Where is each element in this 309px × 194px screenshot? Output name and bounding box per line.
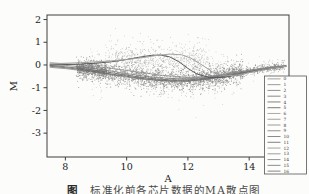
legend-entry-label: 12 — [284, 146, 290, 151]
legend: 012345678910111213141516 — [265, 76, 307, 174]
x-tick-label: 14 — [243, 161, 255, 172]
legend-entry-label: 15 — [284, 163, 290, 168]
figure-caption: 图 标准化前各芯片数据的MA散点图 — [52, 184, 276, 194]
y-tick-label: 1 — [35, 36, 41, 47]
y-tick-label: -2 — [32, 105, 41, 116]
legend-entry-label: 14 — [284, 157, 290, 162]
legend-entry-label: 1 — [284, 82, 287, 87]
x-tick-label: 10 — [121, 161, 133, 172]
figure-caption-text: 标准化前各芯片数据的MA散点图 — [79, 184, 261, 194]
plot-frame — [47, 15, 289, 157]
legend-entry-label: 5 — [284, 105, 287, 110]
legend-entry-label: 4 — [284, 100, 287, 105]
legend-entry-label: 9 — [284, 128, 287, 133]
figure-caption-number: 图 — [67, 184, 79, 194]
y-tick-label: 2 — [35, 14, 41, 25]
x-tick-label: 12 — [182, 161, 194, 172]
ma-plot-figure: 8101214210-1-2-3AM0123456789101112131415… — [0, 0, 309, 194]
y-tick-label: -3 — [32, 127, 41, 138]
y-axis-label: M — [8, 81, 19, 91]
legend-entry-label: 6 — [284, 111, 287, 116]
ma-scatter-plot: 8101214210-1-2-3AM0123456789101112131415… — [0, 0, 309, 184]
x-tick-label: 8 — [62, 161, 68, 172]
legend-entry-label: 16 — [284, 169, 290, 174]
legend-entry-label: 13 — [284, 151, 290, 156]
legend-entry-label: 3 — [284, 94, 287, 99]
legend-entry-label: 7 — [284, 117, 287, 122]
legend-entry-label: 10 — [284, 134, 290, 139]
legend-entry-label: 2 — [284, 88, 287, 93]
legend-entry-label: 0 — [284, 76, 287, 81]
x-axis-label: A — [163, 173, 172, 184]
legend-entry-label: 11 — [284, 140, 290, 145]
y-tick-label: -1 — [32, 82, 41, 93]
y-tick-label: 0 — [35, 59, 41, 70]
legend-entry-label: 8 — [284, 123, 287, 128]
